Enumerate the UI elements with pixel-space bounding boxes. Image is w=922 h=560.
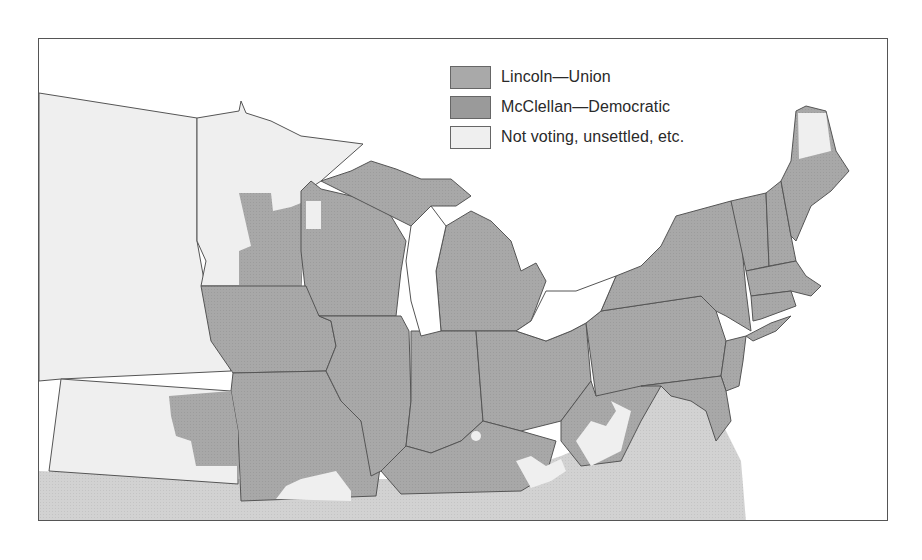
legend-label-not-voting: Not voting, unsettled, etc. (501, 128, 684, 146)
legend-swatch-mcclellan (450, 96, 491, 119)
election-map-frame: Lincoln—Union McClellan—Democratic Not v… (38, 38, 888, 521)
legend: Lincoln—Union McClellan—Democratic Not v… (450, 62, 684, 152)
legend-item-lincoln: Lincoln—Union (450, 62, 684, 92)
legend-item-not-voting: Not voting, unsettled, etc. (450, 122, 684, 152)
legend-swatch-not-voting (450, 126, 491, 149)
legend-label-lincoln: Lincoln—Union (501, 68, 611, 86)
legend-item-mcclellan: McClellan—Democratic (450, 92, 684, 122)
legend-label-mcclellan: McClellan—Democratic (501, 98, 670, 116)
region-kentucky-spot (471, 431, 481, 441)
region-maine-unsettled (798, 113, 831, 159)
region-wisconsin-unsettled (306, 201, 321, 229)
region-michigan-lower (436, 211, 546, 331)
legend-swatch-lincoln (450, 66, 491, 89)
